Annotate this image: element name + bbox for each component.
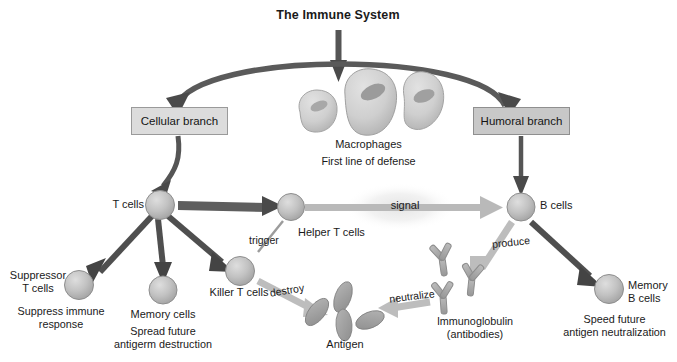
cell-b-cells	[507, 193, 535, 221]
t-cells-label: T cells	[98, 198, 144, 211]
signal-label: signal	[383, 199, 427, 212]
arrow-title-to-macrophages	[330, 30, 347, 82]
cell-memory-cells	[149, 276, 177, 304]
macrophages-label: Macrophages	[296, 138, 441, 151]
arrow-humoral-to-bcells	[513, 136, 529, 196]
antigen-label: Antigen	[314, 338, 376, 351]
arrow-tcells-to-helper	[178, 196, 283, 216]
immunoglobulin-label: Immunoglobulin (antibodies)	[414, 315, 536, 341]
cell-t-cells	[146, 191, 175, 220]
trigger-label: trigger	[249, 234, 293, 247]
cellular-branch-box[interactable]: Cellular branch	[131, 107, 228, 135]
macrophages-caption: First line of defense	[286, 155, 451, 168]
arrow-bcells-to-memoryb	[531, 222, 603, 287]
memory-b-cells-label: Memory B cells	[628, 279, 677, 306]
helper-t-cells-label: Helper T cells	[298, 226, 388, 239]
arrows-tcells-outputs	[86, 216, 234, 284]
antigen-cluster	[301, 279, 387, 341]
cell-memory-b-cells	[595, 275, 624, 304]
cell-helper-t-cells	[278, 194, 305, 221]
b-cells-label: B cells	[540, 199, 590, 212]
suppressor-t-cells-label: Suppressor T cells	[2, 269, 74, 296]
arrow-cellular-to-tcells	[151, 136, 179, 196]
macrophage-cells	[299, 69, 444, 135]
memory-b-caption: Speed future antigen neutralization	[552, 313, 677, 339]
immune-system-diagram: The Immune System Cellular branch Humora…	[0, 0, 677, 362]
cell-killer-t-cells	[226, 257, 255, 286]
memory-cells-label: Memory cells	[113, 308, 213, 321]
memory-cells-caption: Spread future antigerm destruction	[93, 325, 233, 351]
page-title: The Immune System	[238, 8, 438, 23]
humoral-branch-box[interactable]: Humoral branch	[473, 107, 570, 135]
immunoglobulin-antibodies	[428, 242, 485, 315]
